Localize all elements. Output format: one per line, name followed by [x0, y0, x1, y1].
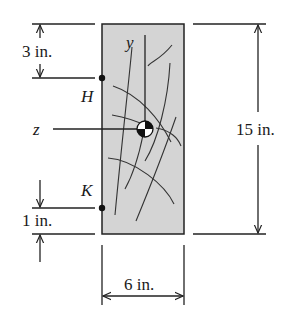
dimension-1in-label: 1 in. — [22, 211, 52, 230]
cross-section-diagram: y z H K 3 in. 1 in. 15 in. — [0, 0, 286, 316]
centroid-icon — [137, 121, 153, 137]
point-H-label: H — [80, 87, 95, 106]
point-K-label: K — [80, 181, 94, 200]
dimension-1in: 1 in. — [22, 180, 52, 262]
dimension-6in: 6 in. — [102, 245, 184, 305]
z-axis-label: z — [32, 120, 40, 139]
dimension-15in: 15 in. — [193, 24, 275, 234]
point-H — [99, 75, 105, 81]
y-axis-label: y — [124, 33, 134, 52]
dimension-6in-label: 6 in. — [124, 275, 154, 294]
dimension-3in: 3 in. — [22, 25, 52, 77]
point-K — [99, 205, 105, 211]
dimension-3in-label: 3 in. — [22, 42, 52, 61]
dimension-15in-label: 15 in. — [236, 120, 275, 139]
